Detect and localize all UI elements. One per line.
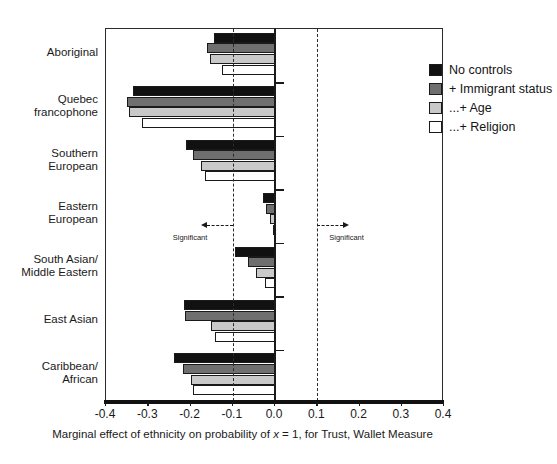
- legend-label: No controls: [449, 63, 512, 77]
- y-axis-category-label: South Asian/Middle Eastern: [2, 253, 98, 279]
- significance-label: Significant: [329, 233, 364, 242]
- x-tick-mark: [190, 402, 191, 406]
- chart-legend: No controls+ Immigrant status...+ Age...…: [429, 61, 557, 137]
- bar: [207, 43, 275, 53]
- x-tick-mark: [232, 402, 233, 406]
- y-axis-category-line: Aboriginal: [2, 46, 98, 59]
- plot-area: SignificantSignificant No controls+ Immi…: [105, 28, 443, 402]
- y-axis-category-line: European: [2, 160, 98, 173]
- x-tick-label: -0.1: [212, 407, 252, 421]
- bar: [129, 107, 275, 117]
- legend-swatch-icon: [429, 83, 442, 95]
- bar: [211, 321, 275, 331]
- x-tick-mark: [105, 402, 106, 406]
- y-axis-category-label: EasternEuropean: [2, 200, 98, 226]
- bar: [205, 171, 275, 181]
- legend-item[interactable]: + Immigrant status: [429, 80, 557, 97]
- group-separator-tick: [275, 136, 284, 138]
- bar: [201, 161, 275, 171]
- group-separator-tick: [275, 296, 284, 298]
- y-axis-category-label: Aboriginal: [2, 46, 98, 59]
- reference-line-zero: [274, 29, 276, 401]
- significance-arrow-line: [317, 225, 343, 226]
- y-axis-category-label: Quebecfrancophone: [2, 93, 98, 119]
- significance-label: Significant: [173, 233, 208, 242]
- legend-label: ...+ Religion: [449, 120, 515, 134]
- x-tick-label: -0.2: [170, 407, 210, 421]
- bar: [193, 385, 275, 395]
- x-tick-mark: [316, 402, 317, 406]
- legend-label: ...+ Age: [449, 101, 492, 115]
- y-axis-category-label: Caribbean/African: [2, 360, 98, 386]
- legend-swatch-icon: [429, 102, 442, 114]
- x-axis-title-part: Marginal effect of ethnicity on probabil…: [52, 428, 273, 440]
- bar: [183, 364, 275, 374]
- legend-item[interactable]: No controls: [429, 61, 557, 78]
- y-axis-category-label: East Asian: [2, 313, 98, 326]
- y-axis-category-line: East Asian: [2, 313, 98, 326]
- bar: [222, 65, 275, 75]
- y-axis-category-label: SouthernEuropean: [2, 147, 98, 173]
- group-separator-tick: [275, 189, 284, 191]
- x-tick-mark: [401, 402, 402, 406]
- significance-arrow-head: [343, 222, 349, 228]
- legend-swatch-icon: [429, 64, 442, 76]
- y-axis-category-line: Quebec: [2, 93, 98, 106]
- x-tick-label: 0.2: [339, 407, 379, 421]
- bar: [215, 332, 275, 342]
- group-separator-tick: [275, 350, 284, 352]
- x-tick-label: 0.1: [296, 407, 336, 421]
- x-tick-label: -0.4: [85, 407, 125, 421]
- x-tick-label: 0.3: [381, 407, 421, 421]
- group-separator-tick: [275, 243, 284, 245]
- y-axis-category-line: francophone: [2, 106, 98, 119]
- bar: [142, 118, 275, 128]
- bar: [256, 268, 275, 278]
- y-axis-category-line: Southern: [2, 147, 98, 160]
- x-tick-mark: [147, 402, 148, 406]
- y-axis-category-line: Eastern: [2, 200, 98, 213]
- significance-arrow-head: [201, 222, 207, 228]
- y-axis-category-line: Caribbean/: [2, 360, 98, 373]
- y-axis-category-line: South Asian/: [2, 253, 98, 266]
- legend-label: + Immigrant status: [449, 82, 552, 96]
- bar: [185, 311, 275, 321]
- x-tick-label: -0.3: [127, 407, 167, 421]
- bar: [186, 140, 275, 150]
- bar: [214, 33, 275, 43]
- x-tick-label: 0.0: [254, 407, 294, 421]
- bar: [248, 257, 275, 267]
- x-tick-label: 0.4: [423, 407, 463, 421]
- bar: [235, 247, 275, 257]
- bar: [184, 300, 275, 310]
- reference-line-significance-negative: [233, 29, 234, 401]
- legend-item[interactable]: ...+ Age: [429, 99, 557, 116]
- bar: [174, 353, 275, 363]
- reference-line-significance-positive: [317, 29, 318, 401]
- bar: [127, 97, 275, 107]
- group-separator-tick: [275, 82, 284, 84]
- legend-swatch-icon: [429, 121, 442, 133]
- y-axis-category-line: Middle Eastern: [2, 266, 98, 279]
- y-axis-category-line: European: [2, 213, 98, 226]
- bar: [193, 150, 275, 160]
- x-tick-mark: [359, 402, 360, 406]
- bar: [133, 86, 275, 96]
- x-tick-mark: [274, 402, 275, 406]
- legend-item[interactable]: ...+ Religion: [429, 118, 557, 135]
- y-axis-category-line: African: [2, 373, 98, 386]
- x-tick-mark: [443, 402, 444, 406]
- significance-arrow-line: [207, 225, 233, 226]
- x-axis-title: Marginal effect of ethnicity on probabil…: [0, 428, 485, 440]
- bar: [210, 54, 275, 64]
- x-axis-title-part: = 1, for Trust, Wallet Measure: [279, 428, 433, 440]
